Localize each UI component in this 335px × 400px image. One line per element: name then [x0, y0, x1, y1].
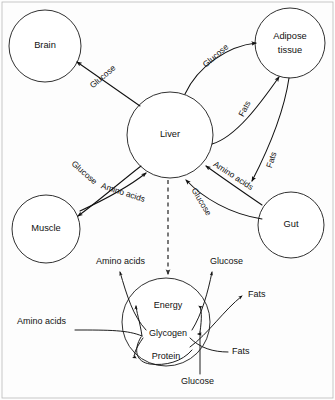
- diagram-canvas: Brain Adipose tissue Liver Muscle Gut Gl…: [0, 0, 335, 400]
- flow-label-muscle-to-liver-amino-acids: Amino acids: [100, 180, 146, 204]
- cell-io-label-in-amino-acids: Amino acids: [17, 316, 67, 326]
- flow-label-gut-to-liver-amino-acids: Amino acids: [212, 159, 256, 192]
- cell-label-protein: Protein: [152, 351, 181, 361]
- node-label-adipose-line2: tissue: [278, 45, 302, 55]
- cell-label-energy: Energy: [154, 300, 183, 310]
- flow-label-liver-to-adipose-glucose: Glucose: [201, 41, 231, 69]
- node-label-liver: Liver: [160, 129, 180, 139]
- node-label-muscle: Muscle: [31, 223, 60, 233]
- metabolism-diagram: Brain Adipose tissue Liver Muscle Gut Gl…: [0, 0, 335, 400]
- node-label-gut: Gut: [284, 219, 299, 229]
- flow-label-liver-to-muscle-glucose: Glucose: [70, 159, 100, 187]
- cell-io-label-out-fats: Fats: [248, 289, 266, 299]
- node-label-brain: Brain: [34, 40, 56, 50]
- cell-io-label-in-fats: Fats: [232, 346, 250, 356]
- cell-io-label-in-glucose: Glucose: [181, 376, 214, 386]
- flow-label-adipose-to-gut-fats: Fats: [264, 150, 279, 169]
- node-label-adipose-line1: Adipose: [273, 31, 307, 41]
- cell-label-glycogen: Glycogen: [149, 328, 187, 338]
- flow-label-liver-to-brain: Glucose: [88, 62, 118, 90]
- cell-io-label-out-glucose: Glucose: [210, 256, 243, 266]
- node-adipose-tissue: [255, 8, 325, 78]
- cell-io-label-out-amino-acids: Amino acids: [96, 256, 146, 266]
- flow-label-gut-to-liver-glucose: Glucose: [189, 186, 214, 218]
